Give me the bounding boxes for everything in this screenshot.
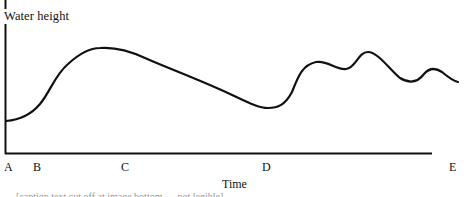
marker-d: D	[262, 160, 271, 175]
marker-b: B	[33, 160, 41, 175]
water-height-curve	[6, 48, 458, 121]
marker-c: C	[121, 160, 129, 175]
hydrograph-figure: Water height A B C D E Time [caption tex…	[0, 0, 464, 197]
marker-e: E	[449, 160, 456, 175]
y-axis-label: Water height	[4, 9, 71, 24]
caption-fragment: [caption text cut off at image bottom — …	[16, 191, 223, 197]
hydrograph-plot	[0, 0, 464, 197]
x-axis-label: Time	[222, 177, 247, 192]
marker-a: A	[4, 160, 13, 175]
